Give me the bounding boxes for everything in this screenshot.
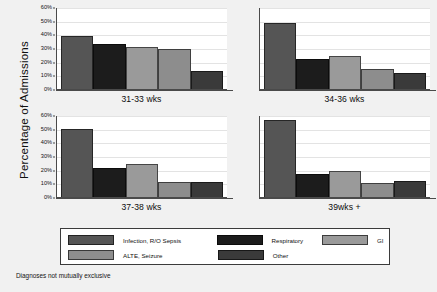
panel-label: 34-36 wks bbox=[259, 94, 430, 104]
legend-swatch bbox=[217, 235, 263, 245]
axis-baseline bbox=[56, 90, 233, 91]
plot-area bbox=[259, 116, 430, 198]
y-tick-label: 30% bbox=[41, 154, 52, 160]
bar bbox=[191, 182, 223, 197]
bar bbox=[61, 36, 93, 89]
bar bbox=[264, 120, 296, 197]
bar bbox=[296, 174, 328, 197]
bar bbox=[361, 69, 393, 90]
y-tick-label: 40% bbox=[41, 33, 52, 39]
y-tick-mark bbox=[53, 21, 56, 22]
axis-baseline bbox=[259, 198, 436, 199]
y-tick-mark bbox=[53, 116, 56, 117]
bar bbox=[158, 182, 190, 197]
plot-area bbox=[259, 8, 430, 90]
bar bbox=[394, 73, 426, 89]
legend-item: GI bbox=[322, 235, 382, 245]
plot-wrapper: 0%10%20%30%40%50%60% bbox=[30, 116, 227, 198]
chart-legend: Infection, R/O SepsisRespiratoryGIALTE, … bbox=[60, 228, 390, 265]
y-tick-label: 0% bbox=[44, 87, 52, 93]
legend-item: Infection, R/O Sepsis bbox=[68, 235, 217, 245]
axis-baseline bbox=[259, 90, 436, 91]
y-axis-ticks: 0%10%20%30%40%50%60% bbox=[30, 8, 55, 90]
legend-swatch bbox=[68, 250, 114, 260]
y-tick-mark bbox=[53, 143, 56, 144]
legend-row: Infection, R/O SepsisRespiratoryGI bbox=[68, 234, 382, 246]
legend-label: Respiratory bbox=[272, 237, 304, 244]
panel-4: 39wks + bbox=[233, 116, 430, 220]
y-tick-label: 20% bbox=[41, 168, 52, 174]
plot-area bbox=[56, 8, 227, 90]
bar bbox=[394, 181, 426, 197]
y-tick-label: 60% bbox=[41, 113, 52, 119]
y-tick-label: 10% bbox=[41, 182, 52, 188]
footnote: Diagnoses not mutually exclusive bbox=[16, 272, 111, 279]
y-tick-mark bbox=[53, 8, 56, 9]
panel-2: 34-36 wks bbox=[233, 8, 430, 112]
bar-group bbox=[61, 8, 223, 89]
y-axis-title: Percentage of Admissions bbox=[18, 0, 30, 220]
bar bbox=[264, 23, 296, 89]
legend-item: ALTE, Seizure bbox=[68, 250, 218, 260]
panel-label: 37-38 wks bbox=[56, 202, 227, 212]
bar bbox=[329, 171, 361, 197]
y-tick-label: 30% bbox=[41, 46, 52, 52]
y-tick-mark bbox=[53, 129, 56, 130]
y-tick-mark bbox=[53, 90, 56, 91]
y-tick-label: 20% bbox=[41, 60, 52, 66]
bar bbox=[361, 183, 393, 197]
y-tick-label: 60% bbox=[41, 5, 52, 11]
bar bbox=[93, 168, 125, 197]
plot-wrapper bbox=[233, 116, 430, 198]
y-tick-mark bbox=[53, 198, 56, 199]
panel-1: 0%10%20%30%40%50%60%31-33 wks bbox=[30, 8, 227, 112]
plot-wrapper: 0%10%20%30%40%50%60% bbox=[30, 8, 227, 90]
y-tick-mark bbox=[53, 49, 56, 50]
bar bbox=[93, 44, 125, 89]
axis-baseline bbox=[56, 198, 233, 199]
legend-row: ALTE, SeizureOther bbox=[68, 249, 382, 261]
legend-item: Other bbox=[218, 250, 324, 260]
panel-3: 0%10%20%30%40%50%60%37-38 wks bbox=[30, 116, 227, 220]
bar bbox=[126, 47, 158, 89]
bar bbox=[296, 59, 328, 89]
bar bbox=[329, 56, 361, 89]
legend-swatch bbox=[68, 235, 114, 245]
y-tick-label: 40% bbox=[41, 141, 52, 147]
panel-label: 31-33 wks bbox=[56, 94, 227, 104]
legend-label: ALTE, Seizure bbox=[123, 252, 162, 259]
y-axis-ticks bbox=[233, 116, 258, 198]
y-tick-label: 10% bbox=[41, 74, 52, 80]
bar-group bbox=[264, 8, 426, 89]
bar bbox=[61, 129, 93, 197]
y-tick-mark bbox=[53, 62, 56, 63]
y-tick-mark bbox=[53, 170, 56, 171]
y-tick-mark bbox=[53, 184, 56, 185]
y-tick-mark bbox=[53, 157, 56, 158]
legend-label: Other bbox=[273, 252, 288, 259]
plot-area bbox=[56, 116, 227, 198]
bar bbox=[126, 164, 158, 197]
y-tick-label: 0% bbox=[44, 195, 52, 201]
y-tick-mark bbox=[53, 35, 56, 36]
panel-grid: 0%10%20%30%40%50%60%31-33 wks34-36 wks0%… bbox=[30, 8, 430, 220]
bar-group bbox=[61, 116, 223, 197]
y-tick-label: 50% bbox=[41, 127, 52, 133]
plot-wrapper bbox=[233, 8, 430, 90]
legend-item: Respiratory bbox=[217, 235, 322, 245]
legend-label: Infection, R/O Sepsis bbox=[123, 237, 181, 244]
legend-swatch bbox=[322, 235, 368, 245]
bar bbox=[158, 49, 190, 89]
y-axis-ticks: 0%10%20%30%40%50%60% bbox=[30, 116, 55, 198]
y-axis-ticks bbox=[233, 8, 258, 90]
y-tick-mark bbox=[53, 76, 56, 77]
legend-label: GI bbox=[377, 237, 384, 244]
panel-label: 39wks + bbox=[259, 202, 430, 212]
bar bbox=[191, 71, 223, 89]
bar-group bbox=[264, 116, 426, 197]
chart-figure: Percentage of Admissions 0%10%20%30%40%5… bbox=[0, 0, 437, 292]
legend-swatch bbox=[218, 250, 264, 260]
y-tick-label: 50% bbox=[41, 19, 52, 25]
